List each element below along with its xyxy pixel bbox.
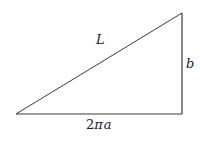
- base-label-variable: a: [104, 117, 112, 132]
- base-label-coefficient: 2: [86, 117, 94, 132]
- hypotenuse-label: L: [95, 32, 105, 47]
- diagram-canvas: L b 2πa: [0, 0, 200, 142]
- base-label: 2πa: [86, 117, 112, 132]
- hypotenuse-line: [16, 13, 182, 114]
- vertical-side-label: b: [186, 56, 194, 71]
- triangle-figure: L b 2πa: [0, 0, 200, 142]
- base-label-pi: π: [93, 117, 103, 132]
